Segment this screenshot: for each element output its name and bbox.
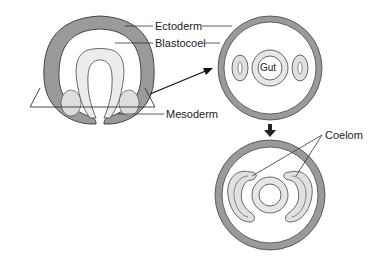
endoderm-layer — [76, 49, 124, 119]
label-ectoderm: Ectoderm — [155, 20, 202, 32]
arrow-right-icon — [150, 68, 213, 94]
mesoderm-pouch-right — [119, 90, 139, 116]
label-mesoderm: Mesoderm — [166, 108, 218, 120]
label-coelom: Coelom — [325, 129, 363, 141]
gastrula-longitudinal-section — [30, 16, 155, 124]
label-gut: Gut — [260, 62, 276, 74]
arrow-down-icon — [264, 124, 276, 137]
label-blastocoel: Blastocoel — [155, 37, 206, 49]
mesoderm-pouch-left — [61, 90, 81, 116]
